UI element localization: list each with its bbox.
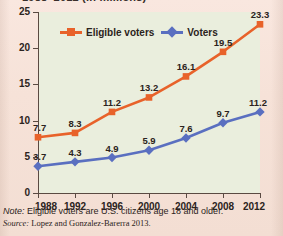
- data-point-label: 16.1: [177, 61, 196, 72]
- data-point-label: 9.7: [216, 108, 229, 119]
- data-point-marker: [144, 146, 153, 155]
- data-point-label: 11.2: [249, 97, 267, 108]
- chart-title-text: 1988–2012 (in millions): [22, 0, 146, 3]
- data-point-marker: [257, 21, 264, 28]
- chart-legend: Eligible votersVoters: [60, 25, 218, 39]
- legend-swatch: [60, 31, 82, 34]
- source-line: Source: Lopez and Gonzalez-Barerra 2013.: [3, 218, 281, 229]
- data-point-marker: [109, 109, 116, 116]
- legend-item: Eligible voters: [60, 27, 154, 38]
- chart-footnotes: Note: Eligible voters are U.S. citizens …: [3, 206, 281, 229]
- data-point-marker: [70, 157, 79, 166]
- data-point-marker: [72, 130, 79, 137]
- note-line: Note: Eligible voters are U.S. citizens …: [3, 206, 281, 217]
- data-point-marker: [181, 133, 190, 142]
- data-point-label: 5.9: [142, 135, 155, 146]
- data-point-label: 4.9: [105, 143, 118, 154]
- data-point-label: 8.3: [68, 118, 81, 129]
- data-point-label: 11.2: [103, 97, 121, 108]
- legend-swatch: [161, 31, 183, 34]
- source-label: Source:: [3, 218, 29, 228]
- data-point-marker: [33, 162, 42, 171]
- data-point-marker: [220, 49, 227, 56]
- data-point-label: 23.3: [251, 9, 270, 20]
- data-point-label: 7.7: [33, 122, 46, 133]
- data-point-label: 7.6: [179, 123, 192, 134]
- note-label: Note:: [3, 206, 25, 216]
- legend-label: Eligible voters: [86, 27, 154, 38]
- data-point-label: 3.7: [33, 151, 46, 162]
- data-point-marker: [146, 94, 153, 101]
- data-point-marker: [183, 73, 190, 80]
- data-point-marker: [35, 134, 42, 141]
- legend-marker-icon: [67, 28, 75, 36]
- data-point-marker: [218, 118, 227, 127]
- data-point-marker: [255, 107, 264, 116]
- source-text: Lopez and Gonzalez-Barerra 2013.: [29, 218, 151, 228]
- note-text: Eligible voters are U.S. citizens age 18…: [25, 206, 224, 216]
- line-chart: 0510152025 1988199219962000200420082012 …: [0, 7, 283, 193]
- data-point-label: 4.3: [68, 147, 81, 158]
- data-point-marker: [107, 153, 116, 162]
- chart-title-clipped: 1988–2012 (in millions): [0, 0, 283, 7]
- data-point-label: 13.2: [140, 82, 159, 93]
- legend-marker-icon: [167, 26, 178, 37]
- legend-item: Voters: [161, 27, 217, 38]
- legend-label: Voters: [187, 27, 217, 38]
